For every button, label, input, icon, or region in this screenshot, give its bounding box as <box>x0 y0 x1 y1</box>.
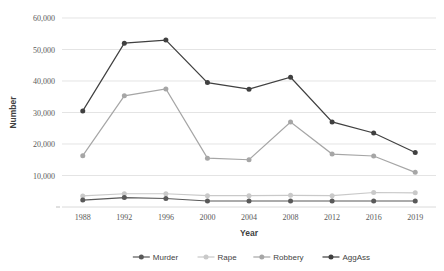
data-point-murder[interactable] <box>247 199 252 204</box>
data-point-murder[interactable] <box>371 199 376 204</box>
series-line-aggass <box>83 40 415 152</box>
y-tick-label: 20,000 <box>33 140 55 149</box>
data-point-aggass[interactable] <box>80 108 85 113</box>
y-tick-label: 10,000 <box>33 172 55 181</box>
data-point-rape[interactable] <box>247 193 252 198</box>
chart-canvas: 10,00020,00030,00040,00050,00060,0001988… <box>0 0 444 271</box>
data-point-aggass[interactable] <box>122 41 127 46</box>
x-tick-label: 1996 <box>158 213 174 222</box>
y-tick-label: 50,000 <box>33 46 55 55</box>
data-point-murder[interactable] <box>205 199 210 204</box>
legend-marker-dot-robbery <box>259 255 264 260</box>
data-point-robbery[interactable] <box>288 119 293 124</box>
y-tick-label: 30,000 <box>33 109 55 118</box>
data-point-murder[interactable] <box>413 199 418 204</box>
data-point-murder[interactable] <box>80 198 85 203</box>
data-point-rape[interactable] <box>371 190 376 195</box>
data-point-robbery[interactable] <box>122 93 127 98</box>
data-point-robbery[interactable] <box>371 153 376 158</box>
legend-label-murder[interactable]: Murder <box>153 253 179 262</box>
data-point-aggass[interactable] <box>330 119 335 124</box>
y-tick-label: 40,000 <box>33 77 55 86</box>
data-point-robbery[interactable] <box>80 153 85 158</box>
y-tick-label: 60,000 <box>33 14 55 23</box>
data-point-murder[interactable] <box>163 196 168 201</box>
x-tick-label: 1988 <box>75 213 91 222</box>
line-chart: 10,00020,00030,00040,00050,00060,0001988… <box>0 0 444 271</box>
data-point-aggass[interactable] <box>413 150 418 155</box>
x-tick-label: 2008 <box>283 213 299 222</box>
x-axis-title: Year <box>240 228 259 238</box>
data-point-rape[interactable] <box>330 193 335 198</box>
data-point-rape[interactable] <box>163 191 168 196</box>
data-point-murder[interactable] <box>122 195 127 200</box>
x-tick-label: 2000 <box>199 213 215 222</box>
data-point-robbery[interactable] <box>330 152 335 157</box>
legend-label-aggass[interactable]: AggAss <box>342 253 370 262</box>
data-point-aggass[interactable] <box>288 75 293 80</box>
data-point-robbery[interactable] <box>247 157 252 162</box>
data-point-murder[interactable] <box>288 199 293 204</box>
data-point-rape[interactable] <box>288 193 293 198</box>
data-point-aggass[interactable] <box>371 130 376 135</box>
x-tick-label: 2016 <box>366 213 382 222</box>
legend-marker-dot-aggass <box>328 255 333 260</box>
data-point-robbery[interactable] <box>205 156 210 161</box>
data-point-rape[interactable] <box>413 190 418 195</box>
x-tick-label: 2019 <box>407 213 423 222</box>
x-tick-label: 2004 <box>241 213 257 222</box>
x-tick-label: 1992 <box>116 213 132 222</box>
data-point-aggass[interactable] <box>205 80 210 85</box>
legend-label-rape[interactable]: Rape <box>218 253 238 262</box>
data-point-robbery[interactable] <box>413 170 418 175</box>
legend-marker-dot-rape <box>204 255 209 260</box>
data-point-aggass[interactable] <box>247 87 252 92</box>
legend-label-robbery[interactable]: Robbery <box>273 253 303 262</box>
data-point-aggass[interactable] <box>163 38 168 43</box>
data-point-rape[interactable] <box>205 193 210 198</box>
legend-marker-dot-murder <box>139 255 144 260</box>
y-axis-title: Number <box>8 96 18 129</box>
data-point-robbery[interactable] <box>163 86 168 91</box>
x-tick-label: 2012 <box>324 213 340 222</box>
data-point-murder[interactable] <box>330 199 335 204</box>
